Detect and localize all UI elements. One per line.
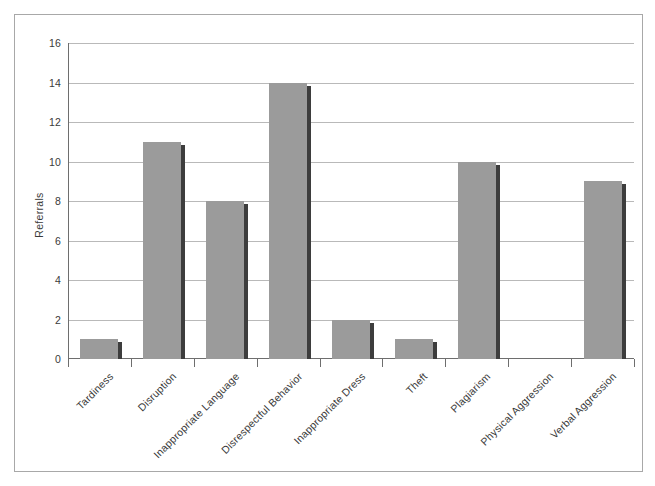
bar-shadow xyxy=(244,204,248,359)
bar-shadow xyxy=(307,86,311,360)
bar-series xyxy=(68,43,634,359)
x-axis-category-label: Theft xyxy=(404,370,430,396)
bar-slot xyxy=(131,43,194,359)
x-axis-category-label: Tardiness xyxy=(74,370,116,412)
bar[interactable] xyxy=(269,83,307,360)
bar-slot xyxy=(194,43,257,359)
x-axis-tick xyxy=(194,359,195,367)
x-axis-category-label: Disruption xyxy=(135,370,178,413)
bar-slot xyxy=(382,43,445,359)
x-axis-category-label: Physical Aggression xyxy=(478,370,556,448)
y-axis-tick-label: 8 xyxy=(55,195,61,207)
x-axis-tick xyxy=(257,359,258,367)
x-axis-tick xyxy=(131,359,132,367)
y-axis-title-label: Referrals xyxy=(33,192,45,237)
bar[interactable] xyxy=(395,339,433,359)
bar-slot xyxy=(320,43,383,359)
bar[interactable] xyxy=(143,142,181,359)
bar-shadow xyxy=(370,323,374,360)
x-axis-tick xyxy=(382,359,383,367)
bar-shadow xyxy=(118,342,122,359)
x-axis-tick xyxy=(320,359,321,367)
y-axis-tick-label: 12 xyxy=(49,116,61,128)
x-axis-tick xyxy=(445,359,446,367)
bar-shadow xyxy=(433,342,437,359)
bar-slot xyxy=(257,43,320,359)
bar[interactable] xyxy=(80,339,118,359)
y-axis-title: Referrals xyxy=(31,57,47,373)
y-axis-tick-label: 2 xyxy=(55,314,61,326)
bar[interactable] xyxy=(584,181,622,359)
chart-frame: Referrals 0246810121416 TardinessDisrupt… xyxy=(14,14,643,472)
bar-shadow xyxy=(496,165,500,360)
y-axis-tick-label: 14 xyxy=(49,77,61,89)
bar-slot xyxy=(571,43,634,359)
bar[interactable] xyxy=(458,162,496,360)
bar-slot xyxy=(445,43,508,359)
x-axis-tick xyxy=(508,359,509,367)
bar-slot xyxy=(508,43,571,359)
x-axis-category-label: Inappropriate Dress xyxy=(291,370,367,446)
y-axis-tick-label: 6 xyxy=(55,235,61,247)
y-axis-tick-label: 10 xyxy=(49,156,61,168)
x-axis-tick xyxy=(634,359,635,367)
bar[interactable] xyxy=(332,320,370,360)
bar-shadow xyxy=(622,184,626,359)
y-axis-tick-label: 16 xyxy=(49,37,61,49)
x-axis-category-label: Verbal Aggression xyxy=(548,370,619,441)
bar[interactable] xyxy=(206,201,244,359)
y-axis-tick-label: 4 xyxy=(55,274,61,286)
bar-shadow xyxy=(181,145,185,359)
x-axis-category-label: Plagiarism xyxy=(448,370,493,415)
plot-area: 0246810121416 TardinessDisruptionInappro… xyxy=(68,43,634,359)
x-axis-tick xyxy=(571,359,572,367)
x-axis-tick xyxy=(68,359,69,367)
y-axis-tick-label: 0 xyxy=(55,353,61,365)
bar-slot xyxy=(68,43,131,359)
